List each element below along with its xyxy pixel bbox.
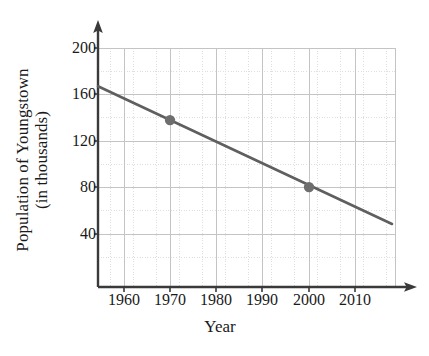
grid-minor-horizontal: [98, 71, 395, 257]
grid-minor-vertical: [110, 48, 386, 287]
y-tick-label-40: 40: [52, 226, 96, 242]
x-tick-label-1990: 1990: [239, 292, 285, 308]
x-tick-label-1980: 1980: [193, 292, 239, 308]
y-tick-label-160: 160: [52, 86, 96, 102]
population-trend-line: [98, 86, 392, 224]
y-axis-title-line2: (in thousands): [32, 111, 51, 209]
x-tick-label-1970: 1970: [147, 292, 193, 308]
y-axis-title-line1: Population of Youngstown: [13, 68, 32, 251]
grid-major-horizontal: [98, 48, 395, 234]
x-tick-label-2000: 2000: [286, 292, 332, 308]
y-tick-label-80: 80: [52, 179, 96, 195]
grid-major-vertical: [124, 48, 355, 287]
x-axis-title: Year: [150, 317, 290, 337]
data-point-2000: [304, 182, 314, 192]
y-tick-label-120: 120: [52, 133, 96, 149]
data-point-1970: [165, 115, 175, 125]
y-axis-title: Population of Youngstown (in thousands): [6, 10, 58, 310]
x-tick-label-1960: 1960: [101, 292, 147, 308]
y-tick-label-200: 200: [52, 40, 96, 56]
x-tick-label-2010: 2010: [332, 292, 378, 308]
chart-figure: 200 160 120 80 40 1960 1970 1980 1990 20…: [0, 0, 429, 356]
